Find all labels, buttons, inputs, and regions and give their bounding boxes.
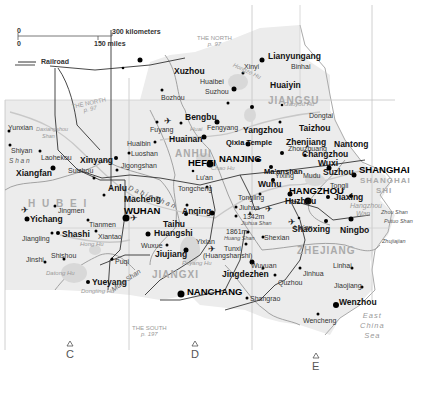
city-linan: Lin'an [294,224,312,231]
peak-jiuhua-height: 1342m [243,213,264,220]
city-yunxian: Yunxian [8,124,33,131]
city-jinshi: Jinshi [26,256,44,263]
city-wenzhou: Wenzhou [339,298,377,307]
city-bengbu: Bengbu [185,113,217,122]
river-huai: Huai [190,126,202,132]
city-yangzhou: Yangzhou [243,126,283,135]
city-jiujiang: Jiujiang [155,250,187,259]
city-xuzhou: Xuzhou [174,67,205,76]
city-tianmen: Tianmen [89,221,116,228]
grid-letter-d: D [191,349,199,360]
city-shanghai: SHANGHAI [359,165,410,175]
lake-datong-hu: Datong Hu [46,270,75,276]
city-huzhou: Huzhou [285,197,316,206]
province-zhejiang: ZHEJIANG [297,246,356,256]
city-suizhou: Suizhou [68,167,93,174]
city-dongtai: Dongtai [309,112,333,119]
city-luoshan: Luoshan [131,150,158,157]
city-jiaojiang: Jiaojiang [334,282,362,289]
sea-east-china: East China Sea [360,311,385,340]
city-zhouzhuang: Zhouzhuang [288,145,327,152]
island-zhujiajian: Zhujiajian [382,239,406,245]
city-huaibei: Huaibei [200,78,224,85]
city-yichang: Yichang [30,215,63,224]
airport-icon: ✈ [265,204,273,214]
city-tongli: Tongli [330,182,348,189]
scale-km-zero: 0 [17,27,21,34]
city-bozhou: Bozhou [161,94,185,101]
city-xinyang: Xinyang [80,156,113,165]
city-huainan: Huainan [169,135,203,144]
scale-mi-label: 150 miles [94,40,126,47]
city-huangshi: Huangshi [154,229,193,238]
city-qixia-temple: Qixia Temple [226,139,272,147]
city-shishou: Shishou [51,252,76,259]
island-putuo-shan: Putuo Shan [384,219,413,225]
map-eastern-china: ✈ ✈ ✈ ✈ ✈ ✈ 0 300 kilometers 0 150 miles… [0,0,432,398]
peak-jiuhua-name: Jiuhua Shan [241,221,272,227]
lake-hong-hu: Hong Hu [80,241,104,247]
sea-label-line: Sea [360,331,385,341]
city-ningbo: Ningbo [340,226,369,235]
city-yixian: Yixian [196,238,215,245]
city-shexian: Shexian [264,234,289,241]
city-lianyungang: Lianyungang [268,52,321,61]
city-huaibin: Huaibin [127,140,151,147]
city-jiaxing: Jiaxing [334,193,363,202]
sea-label-line: East [360,311,385,321]
city-jingdezhen: Jingdezhen [222,270,269,279]
lake-dongting-hu: Dongting Hu [81,288,114,294]
city-mudu: Mudu [303,172,321,179]
lake-chao-hu: Chao Hu [211,165,235,171]
city-jingmen: Jingmen [58,207,84,214]
city-linhai: Linhai [333,262,352,269]
city-nantong: Nantong [334,140,368,149]
province-shanghai-shi-1: SHANGHAI [360,177,411,185]
city-nanjing: NANJING [219,154,262,164]
airport-icon: ✈ [164,116,172,126]
city-taihu: Taihu [163,220,185,229]
province-shanghai-shi-2: SHI [376,187,392,195]
xref-page: p. 197 [132,331,167,337]
bay-hangzhou-wan-2: Wan [356,210,370,217]
city-shashi: Shashi [62,230,90,239]
scale-bar [18,33,112,40]
city-anlu: Anlu [108,184,127,193]
island-zhou-shan: Zhou Shan [381,210,408,216]
lake-poyang-hu: Poyang Hu [182,260,212,266]
city-wuyuan: Wuyuan [251,262,277,269]
peak-huang-name: Huang Shan [224,236,255,242]
city-xiangfan: Xiangfan [16,169,52,178]
scale-mi-zero: 0 [17,40,21,47]
peak-huang-height: 1861m [226,228,247,235]
city-fuyang: Fuyang [150,126,173,133]
city-fengyang: Fengyang [207,124,238,131]
railroad-legend-label: Railroad [41,58,69,65]
city-wencheng: Wencheng [303,317,336,324]
city-wuxue: Wuxue [141,242,163,249]
city-tongcheng: Tongcheng [178,185,212,192]
city-puqi: Puqi [115,258,129,265]
province-jiangxi: JIANGXI [152,270,199,280]
city-xiantao: Xiantao [98,233,122,240]
range-daxiangshou-2: Shan [42,134,55,140]
grid-letter-c: C [66,349,74,360]
xref-south: THE SOUTH p. 197 [132,325,167,337]
lake-gaoyou-hu: Gaoyou Hu [284,101,314,107]
range-daxiangshou-1: Daxiangshou [36,127,68,133]
city-yixing: Yixing [275,172,294,179]
city-nanchang: NANCHANG [187,287,242,297]
city-tunxi: Tunxi [224,245,241,252]
city-jiuhua: Jiuhua [239,204,260,211]
xref-north-top: THE NORTH p. 97 [197,35,232,47]
range-shan-left: S h a n [9,158,30,165]
city-wuhan: WUHAN [124,206,160,216]
city-huaiyin: Huaiyin [270,81,301,90]
city-suzhou-anhui: Suzhou [205,88,229,95]
city-shiyan: Shiyan [11,147,32,154]
xref-page: p. 97 [197,41,232,47]
grid-letter-e: E [312,361,319,372]
city-binhai: Binhai [291,63,310,70]
city-laohekou: Laohekou [41,154,72,161]
city-tunxi-alt: (Huangshanshi) [203,252,252,259]
